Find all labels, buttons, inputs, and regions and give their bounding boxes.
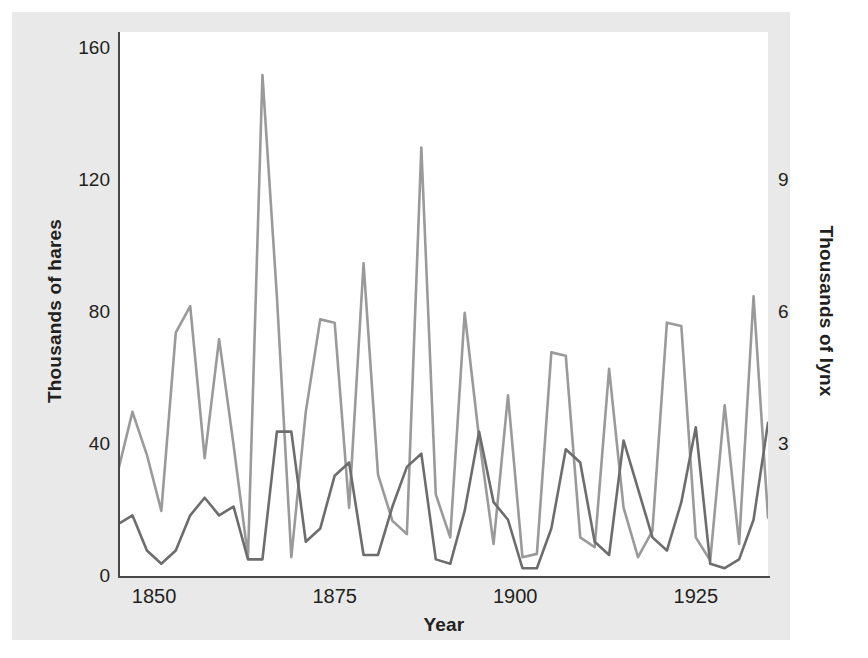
x-axis-tick-1875: 1875 (312, 585, 357, 608)
y-axis-line (118, 32, 120, 578)
y-axis-left-tick-120: 120 (58, 169, 110, 191)
x-axis-tick-1925: 1925 (674, 585, 719, 608)
y-axis-right-title: Thousands of lynx (815, 201, 837, 421)
x-axis-tick-1900: 1900 (493, 585, 538, 608)
series-line-lynx (118, 423, 768, 568)
y-axis-left-tick-160: 160 (58, 37, 110, 59)
y-axis-right-tick-6: 6 (778, 301, 789, 323)
y-axis-left-title: Thousands of hares (44, 201, 66, 421)
x-axis-line (118, 576, 770, 578)
y-axis-left-tick-0: 0 (58, 565, 110, 587)
x-axis-tick-1850: 1850 (132, 585, 177, 608)
series-line-snowshoe-hare (118, 75, 768, 561)
x-axis-title: Year (118, 614, 770, 636)
y-axis-right-tick-9: 9 (778, 169, 789, 191)
y-axis-left-tick-40: 40 (58, 433, 110, 455)
chart-series-svg (118, 32, 768, 578)
y-axis-right-tick-3: 3 (778, 433, 789, 455)
y-axis-right-ticks: 369 (778, 0, 808, 658)
x-axis-ticks: 1850187519001925 (0, 585, 868, 615)
